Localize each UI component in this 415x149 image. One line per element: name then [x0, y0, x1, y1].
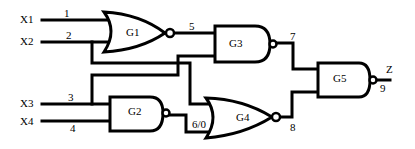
- line-label-2: 2: [66, 29, 72, 41]
- input-label-x3: X3: [20, 97, 34, 109]
- line-label-5: 5: [189, 20, 195, 32]
- gate-g1-nor: G1: [104, 12, 174, 52]
- line-label-7: 7: [290, 30, 296, 42]
- input-label-x2: X2: [20, 35, 33, 47]
- input-label-x4: X4: [20, 115, 34, 127]
- wire-line-6: [169, 115, 213, 132]
- gate-g3-nand: G3: [215, 26, 277, 62]
- gate-label-g5: G5: [333, 72, 347, 84]
- line-label-1: 1: [64, 7, 70, 19]
- output-label-z: Z: [386, 63, 393, 75]
- logic-circuit-diagram: G1 G3 G2 G4 G5 X1 X2 X3 X4 1 2 3 4 5 6/0…: [0, 0, 415, 149]
- gate-g2-nand: G2: [110, 97, 170, 131]
- gate-label-g4: G4: [236, 111, 250, 123]
- gate-label-g3: G3: [229, 37, 243, 49]
- gate-label-g1: G1: [126, 26, 139, 38]
- line-label-6: 6/0: [192, 118, 207, 130]
- gate-g4-nor: G4: [206, 98, 280, 138]
- line-label-4: 4: [70, 122, 76, 134]
- gate-label-g2: G2: [128, 105, 141, 117]
- line-label-8: 8: [290, 121, 296, 133]
- wire-line-8: [279, 92, 318, 117]
- gate-g5-nand: G5: [318, 63, 377, 97]
- wire-line-7: [276, 43, 318, 69]
- line-label-3: 3: [68, 91, 74, 103]
- input-label-x1: X1: [20, 13, 33, 25]
- line-label-9: 9: [380, 82, 386, 94]
